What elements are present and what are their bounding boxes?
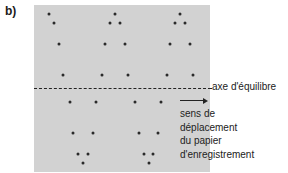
point-dot bbox=[62, 74, 65, 77]
point-dot bbox=[53, 22, 56, 25]
point-dot bbox=[157, 132, 160, 135]
point-dot bbox=[104, 43, 107, 46]
point-dot bbox=[127, 74, 130, 77]
point-dot bbox=[134, 101, 137, 104]
direction-line-2: déplacement bbox=[180, 121, 254, 135]
point-dot bbox=[152, 153, 155, 156]
point-dot bbox=[124, 43, 127, 46]
point-dot bbox=[69, 101, 72, 104]
point-dot bbox=[87, 153, 90, 156]
point-dot bbox=[179, 13, 182, 16]
point-dot bbox=[77, 153, 80, 156]
point-dot bbox=[58, 43, 61, 46]
point-dot bbox=[189, 43, 192, 46]
direction-line-4: d'enregistrement bbox=[180, 148, 254, 162]
point-dot bbox=[174, 22, 177, 25]
point-dot bbox=[95, 101, 98, 104]
point-dot bbox=[101, 74, 104, 77]
direction-line-1: sens de bbox=[180, 107, 254, 121]
point-dot bbox=[82, 162, 85, 165]
point-dot bbox=[192, 74, 195, 77]
point-dot bbox=[160, 101, 163, 104]
point-dot bbox=[109, 22, 112, 25]
point-dot bbox=[148, 162, 151, 165]
equilibrium-axis-label: axe d'équilibre bbox=[212, 81, 276, 92]
point-dot bbox=[184, 22, 187, 25]
direction-line-3: du papier bbox=[180, 134, 254, 148]
arrow-right-icon bbox=[180, 100, 204, 101]
paper-direction-label: sens de déplacement du papier d'enregist… bbox=[180, 107, 254, 161]
point-dot bbox=[169, 43, 172, 46]
point-dot bbox=[72, 132, 75, 135]
equilibrium-axis-line bbox=[34, 88, 211, 89]
point-dot bbox=[138, 132, 141, 135]
point-dot bbox=[119, 22, 122, 25]
point-dot bbox=[48, 13, 51, 16]
point-dot bbox=[166, 74, 169, 77]
point-dot bbox=[143, 153, 146, 156]
point-dot bbox=[92, 132, 95, 135]
panel-label: b) bbox=[5, 4, 16, 18]
point-dot bbox=[114, 13, 117, 16]
